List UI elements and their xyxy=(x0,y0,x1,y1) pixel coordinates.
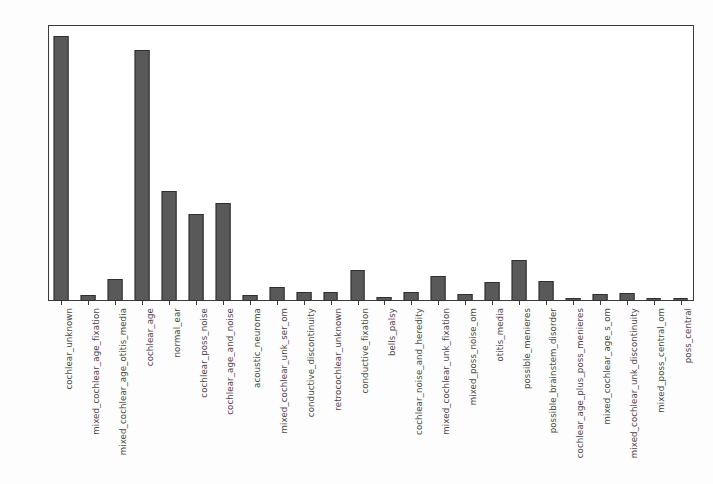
x-axis-tick: mixed_cochlear_unk_fixation xyxy=(425,301,452,484)
bar-slot xyxy=(75,25,102,301)
bar xyxy=(404,292,419,301)
x-axis-tick-label: mixed_cochlear_unk_fixation xyxy=(442,308,451,435)
bar xyxy=(269,287,284,301)
x-axis-tick-mark xyxy=(331,301,332,305)
bar xyxy=(135,50,150,301)
bar-chart-figure: 01020304050 cochlear_unknownmixed_cochle… xyxy=(0,0,713,484)
bar-slot xyxy=(183,25,210,301)
x-axis-tick-mark xyxy=(223,301,224,305)
x-axis-tick: mixed_cochlear_unk_ser_om xyxy=(263,301,290,484)
x-axis-tick: otitis_media xyxy=(479,301,506,484)
x-axis-tick-mark xyxy=(88,301,89,305)
x-axis-tick-mark xyxy=(438,301,439,305)
bar xyxy=(216,203,231,301)
x-axis-tick-label: bells_palsy xyxy=(388,308,397,356)
x-axis-tick-label: mixed_cochlear_age_s_om xyxy=(603,308,612,425)
bar xyxy=(539,281,554,301)
x-axis-tick-mark xyxy=(519,301,520,305)
bar xyxy=(458,294,473,301)
bar xyxy=(512,260,527,301)
x-axis-tick-mark xyxy=(681,301,682,305)
x-axis-tick: bells_palsy xyxy=(371,301,398,484)
y-axis: 01020304050 xyxy=(0,0,48,302)
x-axis-tick-label: conductive_discontinuity xyxy=(307,308,316,417)
x-axis-tick-label: mixed_cochlear_unk_ser_om xyxy=(280,308,289,433)
x-axis-tick-mark xyxy=(169,301,170,305)
x-axis-tick-label: mixed_cochlear_unk_discontinuity xyxy=(630,308,639,458)
bar xyxy=(189,214,204,301)
x-axis-tick: acoustic_neuroma xyxy=(236,301,263,484)
x-axis-tick-mark xyxy=(250,301,251,305)
bar xyxy=(323,292,338,301)
bar-slot xyxy=(640,25,667,301)
x-axis-tick-mark xyxy=(654,301,655,305)
bar xyxy=(431,276,446,301)
x-axis-tick: mixed_cochlear_unk_discontinuity xyxy=(613,301,640,484)
bar-slot xyxy=(425,25,452,301)
bar-slot xyxy=(479,25,506,301)
x-axis-tick: mixed_poss_noise_om xyxy=(452,301,479,484)
x-axis-tick: possible_menieres xyxy=(506,301,533,484)
x-axis-tick-label: mixed_cochlear_age_fixation xyxy=(92,308,101,435)
x-axis-tick-label: cochlear_age xyxy=(146,308,155,366)
x-axis-tick-label: cochlear_poss_noise xyxy=(200,308,209,398)
bar-slot xyxy=(210,25,237,301)
bar-slot xyxy=(506,25,533,301)
x-axis-tick: mixed_poss_central_om xyxy=(640,301,667,484)
x-axis-tick: mixed_cochlear_age_otitis_media xyxy=(102,301,129,484)
x-axis-tick-mark xyxy=(384,301,385,305)
x-axis-tick: conductive_discontinuity xyxy=(290,301,317,484)
x-axis-tick-label: poss_central xyxy=(684,308,693,363)
bar-slot xyxy=(667,25,694,301)
x-axis-tick: retrocochlear_unknown xyxy=(317,301,344,484)
bar xyxy=(592,294,607,301)
x-axis-tick: cochlear_poss_noise xyxy=(183,301,210,484)
x-axis-tick-label: retrocochlear_unknown xyxy=(334,308,343,411)
x-axis-tick-mark xyxy=(304,301,305,305)
bar-slot xyxy=(317,25,344,301)
x-axis-tick: normal_ear xyxy=(156,301,183,484)
bar-slot xyxy=(452,25,479,301)
x-axis-tick-label: possible_brainstem_disorder xyxy=(549,308,558,433)
x-axis-tick-label: mixed_poss_central_om xyxy=(657,308,666,413)
x-axis: cochlear_unknownmixed_cochlear_age_fixat… xyxy=(48,301,694,484)
x-axis-tick-label: normal_ear xyxy=(173,308,182,358)
bar xyxy=(54,36,69,301)
bar-slot xyxy=(102,25,129,301)
bar-slot xyxy=(129,25,156,301)
x-axis-tick-label: cochlear_noise_and_heredity xyxy=(415,308,424,435)
bar-slot xyxy=(290,25,317,301)
x-axis-tick-mark xyxy=(277,301,278,305)
bar-slot xyxy=(263,25,290,301)
bar xyxy=(296,292,311,301)
x-axis-tick-mark xyxy=(600,301,601,305)
x-axis-tick-mark xyxy=(627,301,628,305)
x-axis-tick-mark xyxy=(142,301,143,305)
bar xyxy=(108,279,123,301)
x-axis-tick-mark xyxy=(492,301,493,305)
x-axis-tick-mark xyxy=(115,301,116,305)
x-axis-tick-mark xyxy=(411,301,412,305)
x-axis-tick: poss_central xyxy=(667,301,694,484)
x-axis-tick-mark xyxy=(465,301,466,305)
x-axis-tick-mark xyxy=(61,301,62,305)
x-axis-tick: cochlear_noise_and_heredity xyxy=(398,301,425,484)
x-axis-tick: cochlear_unknown xyxy=(48,301,75,484)
x-axis-tick: mixed_cochlear_age_fixation xyxy=(75,301,102,484)
x-axis-tick-label: cochlear_unknown xyxy=(65,308,74,390)
x-axis-tick-label: mixed_poss_noise_om xyxy=(469,308,478,405)
bar-slot xyxy=(559,25,586,301)
bars-layer xyxy=(48,25,694,301)
x-axis-tick-label: cochlear_age_and_noise xyxy=(226,308,235,415)
bar-slot xyxy=(371,25,398,301)
bar xyxy=(162,191,177,301)
x-axis-tick: cochlear_age xyxy=(129,301,156,484)
x-axis-tick-mark xyxy=(546,301,547,305)
x-axis-tick-label: cochlear_age_plus_poss_menieres xyxy=(576,308,585,458)
bar-slot xyxy=(398,25,425,301)
x-axis-tick-label: acoustic_neuroma xyxy=(253,308,262,388)
bar-slot xyxy=(586,25,613,301)
bar-slot xyxy=(613,25,640,301)
x-axis-tick-mark xyxy=(573,301,574,305)
x-axis-tick: cochlear_age_plus_poss_menieres xyxy=(559,301,586,484)
